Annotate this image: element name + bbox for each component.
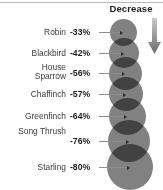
leader-line-blackbird [99, 53, 121, 54]
arrow-down-icon [148, 18, 161, 54]
decrease-value-blackbird: -42% [70, 48, 98, 58]
species-label-song-thrush: Song Thrush [0, 126, 66, 136]
leader-arrowhead-blackbird [121, 52, 124, 56]
species-label-chaffinch: Chaffinch [0, 89, 66, 99]
decrease-value-chaffinch: -57% [70, 89, 98, 99]
species-label-greenfinch: Greenfinch [0, 111, 66, 121]
species-label-starling: Starling [0, 162, 66, 172]
leader-line-robin [99, 32, 120, 33]
leader-line-starling [99, 167, 127, 168]
decrease-value-greenfinch: -64% [70, 111, 98, 121]
decrease-value-house-sparrow: -56% [70, 68, 98, 78]
leader-line-greenfinch [99, 116, 124, 117]
leader-arrowhead-house-sparrow [122, 72, 125, 76]
species-label-line2: Sparrow [0, 72, 66, 81]
leader-arrowhead-chaffinch [123, 93, 126, 97]
decrease-value-robin: -33% [70, 27, 98, 37]
decline-bubble-chart: Decrease Robin-33%Blackbird-42%HouseSpar… [0, 0, 163, 190]
species-label-blackbird: Blackbird [0, 48, 66, 58]
leader-arrowhead-song-thrush [126, 140, 129, 144]
species-label-house-sparrow: HouseSparrow [0, 63, 66, 82]
leader-line-song-thrush [99, 141, 126, 142]
leader-line-house-sparrow [99, 73, 122, 74]
leader-arrowhead-greenfinch [124, 115, 127, 119]
leader-arrowhead-starling [127, 166, 130, 170]
decrease-value-starling: -80% [70, 162, 98, 172]
leader-arrowhead-robin [120, 31, 123, 35]
species-label-robin: Robin [0, 27, 66, 37]
leader-line-chaffinch [99, 94, 123, 95]
decrease-value-song-thrush: -76% [70, 136, 98, 146]
